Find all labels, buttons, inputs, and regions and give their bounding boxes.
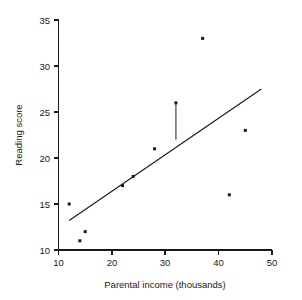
data-point xyxy=(121,184,124,187)
y-axis-ticks xyxy=(54,20,59,250)
data-point xyxy=(174,101,177,104)
data-point xyxy=(132,175,135,178)
chart-canvas: 10 15 20 25 30 35 10 20 30 40 50 Parenta… xyxy=(0,0,302,300)
y-axis-title: Reading score xyxy=(13,104,24,165)
data-point xyxy=(78,239,81,242)
data-point xyxy=(228,193,231,196)
y-axis-tick-labels: 10 15 20 25 30 35 xyxy=(39,15,50,256)
y-tick-label: 10 xyxy=(39,245,50,256)
x-tick-label: 20 xyxy=(107,257,118,268)
x-axis-tick-labels: 10 20 30 40 50 xyxy=(53,257,277,268)
x-axis-title: Parental income (thousands) xyxy=(104,279,225,290)
data-point xyxy=(201,37,204,40)
x-tick-label: 10 xyxy=(53,257,64,268)
y-tick-label: 30 xyxy=(39,61,50,72)
y-tick-label: 25 xyxy=(39,107,50,118)
data-points xyxy=(68,37,247,242)
scatter-plot-figure: 10 15 20 25 30 35 10 20 30 40 50 Parenta… xyxy=(0,0,302,300)
x-axis-ticks xyxy=(59,250,273,255)
data-point xyxy=(153,147,156,150)
x-tick-label: 50 xyxy=(267,257,278,268)
y-tick-label: 35 xyxy=(39,15,50,26)
y-tick-label: 20 xyxy=(39,153,50,164)
data-point xyxy=(84,230,87,233)
regression-line xyxy=(69,89,261,221)
data-point xyxy=(68,203,71,206)
data-point xyxy=(244,129,247,132)
x-tick-label: 40 xyxy=(213,257,224,268)
y-tick-label: 15 xyxy=(39,199,50,210)
x-tick-label: 30 xyxy=(160,257,171,268)
